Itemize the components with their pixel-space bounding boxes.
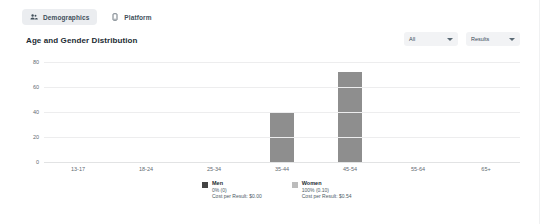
x-axis-tick: 45-54: [343, 166, 357, 172]
breakdown-select-value: All: [409, 36, 415, 42]
demographics-card: Demographics Platform Age and Gender Dis…: [0, 0, 540, 224]
y-axis-tick: 60: [33, 84, 39, 90]
tab-platform[interactable]: Platform: [103, 9, 159, 25]
chevron-down-icon: [447, 38, 453, 41]
x-axis-tick: 13-17: [71, 166, 85, 172]
chart-controls: All Results: [404, 32, 520, 46]
y-axis-tick: 40: [33, 109, 39, 115]
people-icon: [30, 13, 38, 21]
legend-swatch: [292, 182, 298, 188]
page-title: Age and Gender Distribution: [26, 36, 138, 45]
device-icon: [111, 13, 119, 21]
gridline: [44, 137, 520, 138]
gridline: [44, 87, 520, 88]
breakdown-select[interactable]: All: [404, 32, 458, 46]
bar[interactable]: [338, 72, 362, 162]
chevron-down-icon: [509, 38, 515, 41]
x-axis-tick: 35-44: [275, 166, 289, 172]
x-axis-tick: 65+: [481, 166, 490, 172]
legend-text: Women100% (0.10)Cost per Result: $0.54: [302, 181, 352, 200]
x-axis-tick: 55-64: [411, 166, 425, 172]
legend-text: Men0% (0)Cost per Result: $0.00: [212, 181, 262, 200]
legend-item[interactable]: Women100% (0.10)Cost per Result: $0.54: [292, 181, 352, 200]
tab-demographics-label: Demographics: [43, 14, 89, 21]
metric-select-value: Results: [471, 36, 489, 42]
legend-item[interactable]: Men0% (0)Cost per Result: $0.00: [202, 181, 262, 200]
legend-label: Men: [212, 181, 262, 187]
gridline: [44, 112, 520, 113]
legend-label: Women: [302, 181, 352, 187]
tab-platform-label: Platform: [124, 14, 151, 21]
tab-demographics[interactable]: Demographics: [22, 9, 97, 25]
chart-legend: Men0% (0)Cost per Result: $0.00Women100%…: [202, 181, 352, 200]
y-axis-tick: 0: [36, 159, 39, 165]
bar-chart-plot: 020406080: [44, 62, 520, 162]
y-axis-tick: 20: [33, 134, 39, 140]
gridline: [44, 62, 520, 63]
x-axis-tick: 18-24: [139, 166, 153, 172]
x-axis-tick: 25-34: [207, 166, 221, 172]
x-axis-labels: 13-1718-2425-3435-4445-5455-6465+: [44, 166, 520, 176]
legend-cost: Cost per Result: $0.00: [212, 194, 262, 200]
legend-cost: Cost per Result: $0.54: [302, 194, 352, 200]
gridline: [44, 162, 520, 163]
metric-select[interactable]: Results: [466, 32, 520, 46]
legend-swatch: [202, 182, 208, 188]
y-axis-tick: 80: [33, 59, 39, 65]
tabbar: Demographics Platform: [22, 9, 160, 25]
